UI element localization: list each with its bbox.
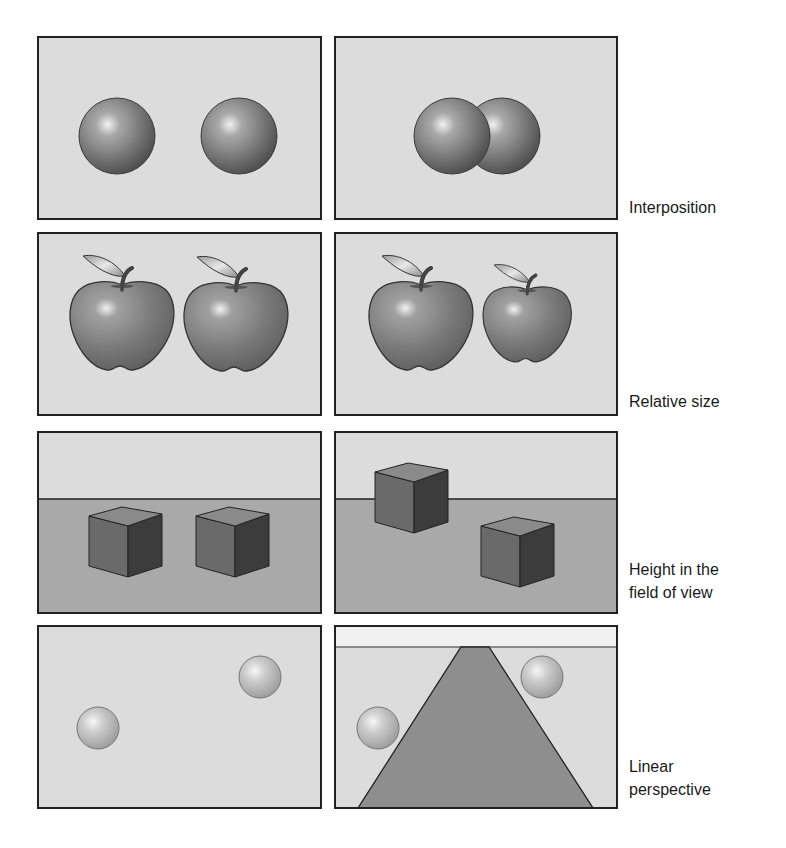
- panel-interposition-left: [38, 37, 321, 219]
- ball-icon: [77, 707, 119, 749]
- depth-cues-figure: [0, 0, 786, 848]
- sky-strip: [335, 626, 617, 647]
- panel-relative-size-right: [335, 233, 617, 415]
- panel-linear-perspective-left: [38, 626, 321, 808]
- panel-interposition-right: [335, 37, 617, 219]
- label-linear-line1: Linear: [629, 755, 673, 778]
- sphere-icon: [79, 98, 155, 174]
- ball-icon: [239, 656, 281, 698]
- label-interposition: Interposition: [629, 196, 716, 219]
- cube-icon: [196, 507, 269, 577]
- panel-height-in-field-left: [38, 432, 321, 613]
- cube-icon: [375, 463, 448, 533]
- ball-icon: [357, 707, 399, 749]
- sphere-icon: [414, 98, 490, 174]
- panel-height-in-field-right: [335, 432, 617, 613]
- label-height-line2: field of view: [629, 581, 713, 604]
- label-height-line1: Height in the: [629, 558, 719, 581]
- sphere-icon: [201, 98, 277, 174]
- panel-relative-size-left: [38, 233, 321, 415]
- label-linear-line2: perspective: [629, 778, 711, 801]
- cube-icon: [481, 517, 554, 587]
- label-relative-size: Relative size: [629, 390, 720, 413]
- ball-icon: [521, 656, 563, 698]
- cube-icon: [89, 507, 162, 577]
- ground-plane: [38, 499, 321, 613]
- panel-linear-perspective-right: [335, 626, 617, 808]
